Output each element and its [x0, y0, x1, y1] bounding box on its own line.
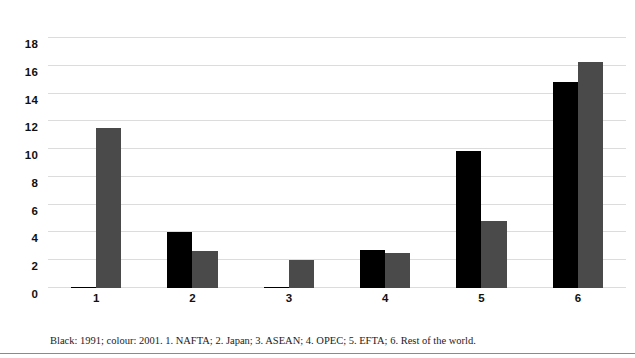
bar-group	[264, 38, 314, 288]
bar-series-a	[360, 250, 385, 288]
bar-series-b	[289, 260, 314, 288]
bar-series-a	[456, 151, 481, 288]
x-tick-label: 5	[478, 292, 484, 304]
bar-series-a	[167, 232, 192, 288]
bar-series-b	[192, 251, 217, 288]
x-tick-label: 1	[93, 292, 99, 304]
x-tick-label: 4	[382, 292, 388, 304]
bar-series-a	[71, 287, 96, 288]
bar-series-b	[96, 128, 121, 288]
bar-group	[456, 38, 506, 288]
bar-chart-figure: 024681012141618 123456 Black: 1991; colo…	[0, 0, 635, 358]
bars-layer	[48, 38, 626, 288]
bottom-rule	[0, 353, 635, 354]
y-axis: 024681012141618	[0, 38, 44, 288]
bar-series-b	[481, 221, 506, 288]
x-tick-label: 3	[286, 292, 292, 304]
bar-series-b	[385, 253, 410, 288]
bar-group	[360, 38, 410, 288]
x-tick-label: 2	[189, 292, 195, 304]
plot-area	[48, 38, 626, 288]
chart-caption: Black: 1991; colour: 2001. 1. NAFTA; 2. …	[50, 334, 610, 348]
x-axis: 123456	[48, 292, 626, 312]
bar-series-a	[553, 82, 578, 288]
bar-group	[553, 38, 603, 288]
x-tick-label: 6	[575, 292, 581, 304]
bar-series-a	[264, 287, 289, 288]
bar-series-b	[578, 62, 603, 288]
bar-group	[167, 38, 217, 288]
bar-group	[71, 38, 121, 288]
